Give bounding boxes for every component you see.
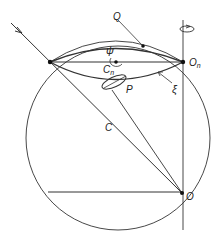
- o-point: [180, 191, 184, 195]
- on-point: [181, 60, 185, 64]
- label-xi: ξ: [172, 83, 178, 96]
- label-O: O: [186, 191, 194, 202]
- outer-circle: [26, 46, 210, 230]
- left-vertex-point: [48, 60, 52, 64]
- label-P: P: [126, 84, 133, 95]
- p-to-o-line: [112, 90, 182, 193]
- xi-pointer: [158, 72, 172, 83]
- label-C: C: [105, 122, 113, 133]
- label-Q: Q: [113, 11, 121, 22]
- label-psi: ψ: [106, 44, 114, 56]
- cn-point: [114, 60, 118, 64]
- rotation-arrow-icon: [180, 25, 194, 32]
- orbit-lenses: [50, 41, 183, 80]
- geometry-diagram: Q ψ Cn On ξ P C O: [0, 0, 220, 236]
- label-On: On: [189, 57, 201, 69]
